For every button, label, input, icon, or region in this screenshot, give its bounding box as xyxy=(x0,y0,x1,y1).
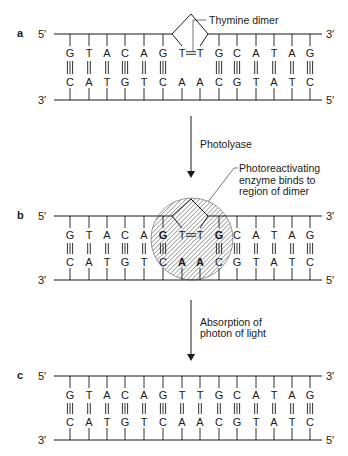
bottom-strand-5prime-label: 5′ xyxy=(326,94,334,106)
top-strand-base: T xyxy=(179,389,186,401)
photoreactivation-diagram: a5′3′3′5′GCTAATCGATGCTATAGCCGATTAATGCThy… xyxy=(0,0,348,456)
bottom-strand-base: C xyxy=(159,256,167,268)
top-strand-base: A xyxy=(252,389,260,401)
top-strand-base: T xyxy=(197,229,204,241)
bottom-strand-base: C xyxy=(306,416,314,428)
panel-c-repaired-dna: c5′3′3′5′GCTAATCGATGCTATAGCCGATTAATGC xyxy=(17,369,334,446)
top-strand-5prime-label: 5′ xyxy=(38,28,46,40)
panel-label: b xyxy=(17,209,24,221)
bottom-strand-base: T xyxy=(253,416,260,428)
bottom-strand-base: C xyxy=(66,256,74,268)
bottom-strand-base: T xyxy=(104,76,111,88)
bottom-strand-base: A xyxy=(196,256,204,268)
top-strand-base: A xyxy=(140,47,148,59)
top-strand-base: A xyxy=(103,229,111,241)
bottom-strand-base: G xyxy=(233,256,242,268)
top-strand-base: T xyxy=(271,229,278,241)
top-strand-base: G xyxy=(159,47,168,59)
top-strand-base: T xyxy=(271,47,278,59)
top-strand-base: T xyxy=(179,229,186,241)
bottom-strand-base: A xyxy=(178,76,186,88)
top-strand-base: C xyxy=(121,389,129,401)
bottom-strand-base: C xyxy=(306,76,314,88)
top-strand-base: G xyxy=(306,389,315,401)
arrow-down-icon xyxy=(187,354,195,361)
bottom-strand-base: G xyxy=(233,76,242,88)
panel-label: a xyxy=(17,27,24,39)
bottom-strand-base: T xyxy=(289,416,296,428)
bottom-strand-base: T xyxy=(289,256,296,268)
top-strand-base: A xyxy=(140,389,148,401)
top-strand-base: A xyxy=(252,229,260,241)
bottom-strand-base: T xyxy=(141,256,148,268)
bottom-strand-base: T xyxy=(104,416,111,428)
bottom-strand-base: G xyxy=(121,76,130,88)
top-strand-base: T xyxy=(197,389,204,401)
top-strand-3prime-label: 3′ xyxy=(326,28,334,40)
bottom-strand-base: A xyxy=(178,416,186,428)
bottom-strand-base: A xyxy=(196,76,204,88)
panel-b-enzyme-bound-dna: b5′3′3′5′GCTAATCGATGCTATAGCCGATTAATGCPho… xyxy=(17,162,334,286)
bottom-strand-base: G xyxy=(121,416,130,428)
top-strand-base: C xyxy=(121,229,129,241)
bottom-strand-3prime-label: 3′ xyxy=(38,274,46,286)
top-strand-5prime-label: 5′ xyxy=(38,210,46,222)
top-strand-base: A xyxy=(103,47,111,59)
bottom-strand-5prime-label: 5′ xyxy=(326,274,334,286)
bottom-strand-base: A xyxy=(270,76,278,88)
bottom-strand-base: T xyxy=(289,76,296,88)
top-strand-base: G xyxy=(66,47,75,59)
bottom-strand-base: C xyxy=(159,416,167,428)
top-strand-base: A xyxy=(103,389,111,401)
bottom-strand-base: C xyxy=(66,76,74,88)
bottom-strand-base: C xyxy=(215,76,223,88)
top-strand-base: A xyxy=(288,389,296,401)
top-strand-base: C xyxy=(233,47,241,59)
bottom-strand-base: C xyxy=(159,76,167,88)
top-strand-3prime-label: 3′ xyxy=(326,370,334,382)
top-strand-base: T xyxy=(271,389,278,401)
bottom-strand-base: T xyxy=(141,76,148,88)
bottom-strand-base: A xyxy=(85,76,93,88)
top-strand-base: G xyxy=(215,389,224,401)
enzyme-callout-text: region of dimer xyxy=(239,185,310,197)
top-strand-base: G xyxy=(66,389,75,401)
bottom-strand-base: G xyxy=(121,256,130,268)
top-strand-base: G xyxy=(215,47,224,59)
top-strand-base: C xyxy=(233,229,241,241)
bottom-strand-base: A xyxy=(270,416,278,428)
bottom-strand-base: T xyxy=(253,256,260,268)
top-strand-base: C xyxy=(121,47,129,59)
thymine-dimer-label: Thymine dimer xyxy=(209,14,279,26)
bottom-strand-3prime-label: 3′ xyxy=(38,94,46,106)
bottom-strand-5prime-label: 5′ xyxy=(326,434,334,446)
bottom-strand-base: A xyxy=(85,416,93,428)
dimer-backbone-link xyxy=(172,34,182,46)
top-strand-base: A xyxy=(288,229,296,241)
top-strand-5prime-label: 5′ xyxy=(38,370,46,382)
top-strand-base: C xyxy=(233,389,241,401)
step-label: Photolyase xyxy=(200,138,252,150)
bottom-strand-base: A xyxy=(196,416,204,428)
top-strand-base: G xyxy=(215,229,224,241)
top-strand-base: G xyxy=(306,47,315,59)
top-strand-base: A xyxy=(252,47,260,59)
top-strand-base: G xyxy=(159,389,168,401)
bottom-strand-base: T xyxy=(104,256,111,268)
panel-a-dna-with-thymine-dimer: a5′3′3′5′GCTAATCGATGCTATAGCCGATTAATGCThy… xyxy=(17,14,334,106)
dimer-backbone-distortion xyxy=(172,14,208,34)
top-strand-base: T xyxy=(86,229,93,241)
bottom-strand-base: G xyxy=(233,416,242,428)
bottom-strand-base: C xyxy=(215,416,223,428)
top-strand-base: G xyxy=(66,229,75,241)
top-strand-3prime-label: 3′ xyxy=(326,210,334,222)
dimer-backbone-link xyxy=(200,34,208,46)
top-strand-base: T xyxy=(86,389,93,401)
top-strand-base: G xyxy=(159,229,168,241)
step-label: photon of light xyxy=(200,327,266,339)
diagram-canvas: a5′3′3′5′GCTAATCGATGCTATAGCCGATTAATGCThy… xyxy=(0,0,348,456)
top-strand-base: T xyxy=(179,47,186,59)
bottom-strand-base: T xyxy=(253,76,260,88)
top-strand-base: T xyxy=(197,47,204,59)
top-strand-base: A xyxy=(288,47,296,59)
